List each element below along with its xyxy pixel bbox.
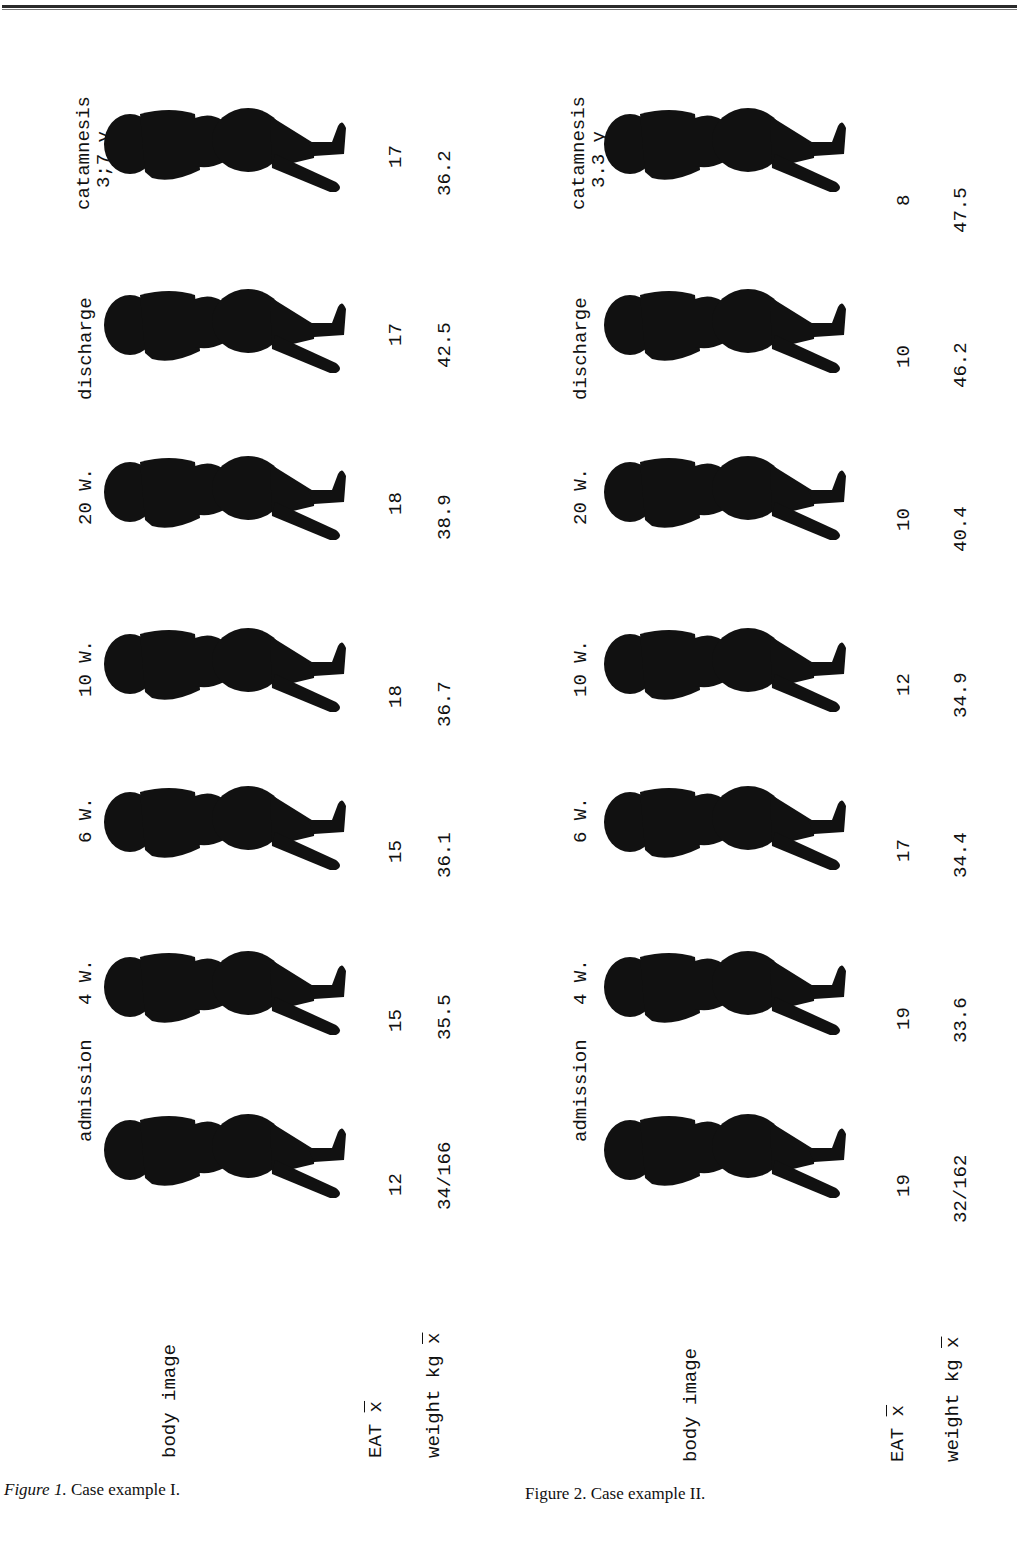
eat-value: 17 bbox=[894, 839, 914, 862]
body-silhouette-icon bbox=[600, 440, 850, 545]
weight-value: 34.9 bbox=[951, 672, 971, 718]
eat-value: 17 bbox=[386, 145, 406, 168]
eat-value: 15 bbox=[386, 1009, 406, 1032]
body-silhouette-icon bbox=[100, 92, 350, 197]
weight-value: 35.5 bbox=[435, 994, 455, 1040]
body-silhouette-icon bbox=[600, 770, 850, 875]
row-label-eat: EAT x bbox=[888, 1405, 908, 1462]
weight-value: 36.7 bbox=[435, 681, 455, 727]
row-label-eat: EAT x bbox=[366, 1401, 386, 1458]
body-silhouette-icon bbox=[100, 273, 350, 378]
weight-value: 33.6 bbox=[951, 997, 971, 1043]
weight-value: 34/166 bbox=[435, 1142, 455, 1210]
body-silhouette-icon bbox=[600, 1098, 850, 1203]
eat-value: 12 bbox=[386, 1173, 406, 1196]
stage-label: 20 W. bbox=[76, 468, 96, 525]
stage-label: admission bbox=[76, 1039, 96, 1142]
eat-value: 17 bbox=[386, 323, 406, 346]
stage-label: 20 W. bbox=[571, 468, 591, 525]
row-label-weight: weight kg x bbox=[943, 1337, 963, 1462]
stage-label: 6 W. bbox=[76, 797, 96, 843]
weight-value: 34.4 bbox=[951, 832, 971, 878]
eat-value: 19 bbox=[894, 1174, 914, 1197]
body-silhouette-icon bbox=[100, 612, 350, 717]
figure-caption: Figure 1. Case example I. bbox=[4, 1480, 180, 1500]
stage-label: 10 W. bbox=[76, 640, 96, 697]
stage-label: 10 W. bbox=[571, 640, 591, 697]
weight-value: 42.5 bbox=[435, 322, 455, 368]
eat-value: 15 bbox=[386, 840, 406, 863]
body-silhouette-icon bbox=[600, 92, 850, 197]
body-silhouette-icon bbox=[100, 770, 350, 875]
row-label-body-image: body image bbox=[160, 1344, 180, 1458]
eat-value: 10 bbox=[894, 345, 914, 368]
stage-label: 6 W. bbox=[571, 797, 591, 843]
eat-value: 10 bbox=[894, 508, 914, 531]
row-label-weight: weight kg x bbox=[424, 1333, 444, 1458]
stage-label: 4 W. bbox=[76, 959, 96, 1005]
stage-label: discharge bbox=[76, 297, 96, 400]
weight-value: 36.1 bbox=[435, 832, 455, 878]
figure-1: catamnesis3;7 y discharge 20 W. 10 W. 6 … bbox=[0, 0, 500, 1546]
figure-2: catamnesis3.3 y discharge 20 W. 10 W. 6 … bbox=[495, 0, 995, 1546]
weight-value: 36.2 bbox=[435, 150, 455, 196]
body-silhouette-icon bbox=[100, 1098, 350, 1203]
weight-value: 40.4 bbox=[951, 506, 971, 552]
stage-label: admission bbox=[571, 1039, 591, 1142]
figure-caption: Figure 2. Case example II. bbox=[525, 1484, 705, 1504]
body-silhouette-icon bbox=[100, 440, 350, 545]
body-silhouette-icon bbox=[100, 935, 350, 1040]
eat-value: 8 bbox=[894, 195, 914, 206]
stage-label: discharge bbox=[571, 297, 591, 400]
stage-label: 4 W. bbox=[571, 959, 591, 1005]
eat-value: 18 bbox=[386, 492, 406, 515]
row-label-body-image: body image bbox=[681, 1348, 701, 1462]
eat-value: 18 bbox=[386, 685, 406, 708]
weight-value: 38.9 bbox=[435, 494, 455, 540]
body-silhouette-icon bbox=[600, 612, 850, 717]
body-silhouette-icon bbox=[600, 273, 850, 378]
weight-value: 32/162 bbox=[951, 1155, 971, 1223]
eat-value: 19 bbox=[894, 1007, 914, 1030]
body-silhouette-icon bbox=[600, 935, 850, 1040]
weight-value: 46.2 bbox=[951, 342, 971, 388]
eat-value: 12 bbox=[894, 673, 914, 696]
weight-value: 47.5 bbox=[951, 187, 971, 233]
